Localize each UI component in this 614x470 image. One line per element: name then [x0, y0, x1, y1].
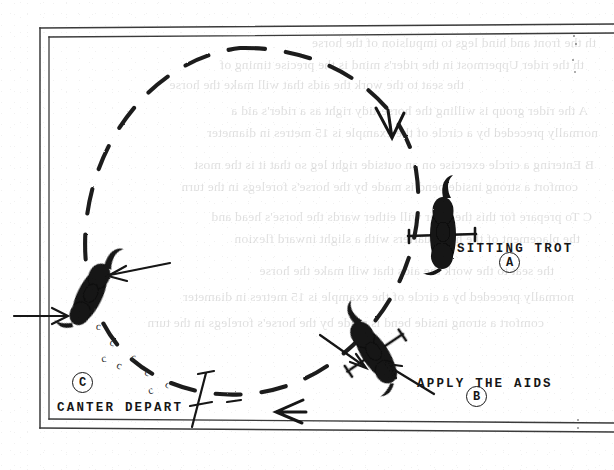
diagram-labels: SITTING TROT A APPLY THE AIDS B CANTER D…: [0, 0, 614, 470]
label-canter-depart: CANTER DEPART: [57, 401, 183, 415]
marker-c: C: [72, 372, 93, 393]
diagram-canvas: th the front and hind legs to impulsion …: [0, 0, 614, 470]
marker-a: A: [499, 252, 520, 273]
label-apply-the-aids: APPLY THE AIDS: [417, 377, 553, 391]
marker-b: B: [466, 386, 487, 407]
